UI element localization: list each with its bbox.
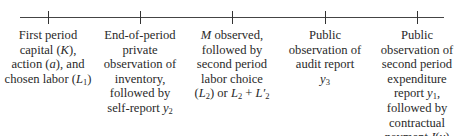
label-line: chosen labor (L1): [2, 72, 94, 87]
timeline-event-label-1: First periodcapital (K),action (a), andc…: [2, 28, 94, 86]
label-line: observation of: [371, 43, 459, 58]
label-line: Public: [371, 28, 459, 43]
timeline-tick-5: [417, 11, 418, 24]
timeline-event-label-2: End-of-periodprivateobservation ofinvent…: [94, 28, 186, 116]
label-line: second period: [371, 57, 459, 72]
label-line: M observed,: [186, 28, 278, 43]
label-line: followed by: [186, 43, 278, 58]
timeline-event-label-4: Publicobservation ofaudit reporty3: [279, 28, 371, 86]
label-line: inventory,: [94, 72, 186, 87]
label-line: capital (K),: [2, 43, 94, 58]
label-line: private: [94, 43, 186, 58]
label-line: observation of: [94, 57, 186, 72]
label-line: End-of-period: [94, 28, 186, 43]
label-line: action (a), and: [2, 57, 94, 72]
label-line: labor choice: [186, 72, 278, 87]
label-line: second period: [186, 57, 278, 72]
label-line: (L2) or L2 + L′2: [186, 86, 278, 101]
label-line: report y1,: [371, 86, 459, 101]
timeline-tick-4: [325, 11, 326, 24]
timeline-tick-2: [140, 11, 141, 24]
timeline-tick-1: [48, 11, 49, 24]
label-line: contractual: [371, 116, 459, 131]
timeline-tick-3: [232, 11, 233, 24]
label-line: observation of: [279, 43, 371, 58]
label-line: Public: [279, 28, 371, 43]
label-line: First period: [2, 28, 94, 43]
label-line: followed by: [94, 86, 186, 101]
label-line: y3: [279, 72, 371, 87]
label-line: payment I(y): [371, 130, 459, 136]
label-line: followed by: [371, 101, 459, 116]
timeline-event-label-3: M observed,followed bysecond periodlabor…: [186, 28, 278, 101]
label-line: expenditure: [371, 72, 459, 87]
timeline-event-label-5: Publicobservation ofsecond periodexpendi…: [371, 28, 459, 136]
label-line: self-report y2: [94, 101, 186, 116]
timeline-diagram: First periodcapital (K),action (a), andc…: [0, 0, 459, 136]
label-line: audit report: [279, 57, 371, 72]
